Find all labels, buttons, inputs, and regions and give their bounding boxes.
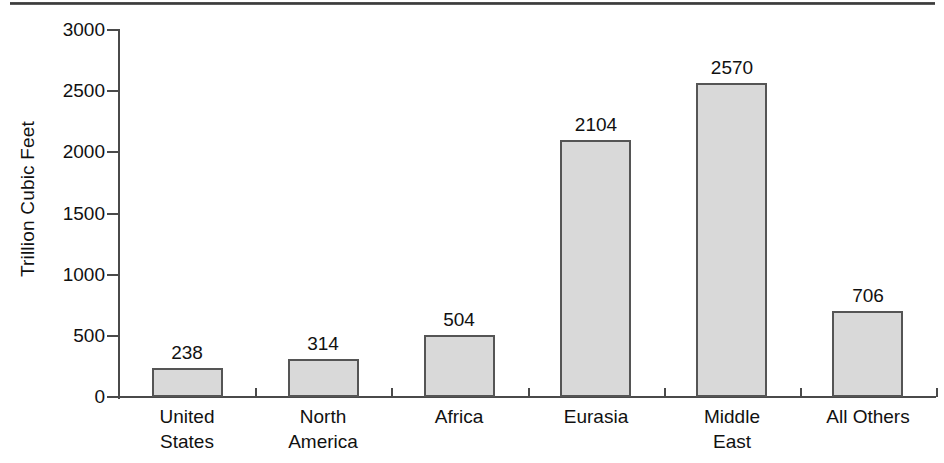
bar-value-label: 2570 bbox=[682, 57, 782, 79]
x-axis-category-label-line: Eurasia bbox=[526, 404, 666, 429]
y-axis-tick-label: 2500 bbox=[57, 80, 105, 102]
x-axis-category-label: NorthAmerica bbox=[253, 404, 393, 454]
bar-value-label: 706 bbox=[818, 285, 918, 307]
x-axis-category-label-line: All Others bbox=[798, 404, 938, 429]
x-axis-category-label: MiddleEast bbox=[662, 404, 802, 454]
bar-value-label: 314 bbox=[273, 333, 373, 355]
x-axis-tick bbox=[255, 388, 257, 397]
x-axis-category-label: Africa bbox=[389, 404, 529, 429]
y-axis-tick-label: 1500 bbox=[57, 203, 105, 225]
y-axis-tick bbox=[107, 274, 119, 276]
x-axis-category-label-line: States bbox=[117, 429, 257, 454]
y-axis-tick-label: 0 bbox=[57, 386, 105, 408]
y-axis-tick bbox=[107, 335, 119, 337]
chart-canvas: Trillion Cubic Feet 30002500200015001000… bbox=[0, 0, 944, 463]
x-axis-category-label: UnitedStates bbox=[117, 404, 257, 454]
y-axis-tick bbox=[107, 213, 119, 215]
bar bbox=[424, 335, 495, 397]
x-axis-tick bbox=[664, 388, 666, 397]
bar-value-label: 238 bbox=[137, 342, 237, 364]
x-axis-category-label-line: East bbox=[662, 429, 802, 454]
bar-value-label: 504 bbox=[409, 309, 509, 331]
y-axis-tick bbox=[107, 29, 119, 31]
x-axis-tick bbox=[391, 388, 393, 397]
x-axis-category-label-line: United bbox=[117, 404, 257, 429]
x-axis-category-label: All Others bbox=[798, 404, 938, 429]
bar bbox=[832, 311, 903, 397]
y-axis-tick-label: 2000 bbox=[57, 141, 105, 163]
y-axis-tick bbox=[107, 396, 119, 398]
x-axis-tick bbox=[528, 388, 530, 397]
x-axis-tick bbox=[936, 388, 938, 397]
x-axis-category-label: Eurasia bbox=[526, 404, 666, 429]
x-axis-category-label-line: Africa bbox=[389, 404, 529, 429]
bar bbox=[152, 368, 223, 397]
bar bbox=[560, 140, 631, 397]
x-axis-category-label-line: Middle bbox=[662, 404, 802, 429]
y-axis-title-text: Trillion Cubic Feet bbox=[17, 120, 39, 276]
x-axis-category-label-line: North bbox=[253, 404, 393, 429]
page-rule-divider bbox=[10, 2, 935, 5]
x-axis-tick bbox=[800, 388, 802, 397]
y-axis-tick bbox=[107, 151, 119, 153]
x-axis-line bbox=[118, 396, 936, 398]
y-axis-tick-label: 1000 bbox=[57, 264, 105, 286]
y-axis-title: Trillion Cubic Feet bbox=[0, 0, 56, 397]
bar-value-label: 2104 bbox=[546, 114, 646, 136]
bar bbox=[288, 359, 359, 397]
y-axis-tick-label: 500 bbox=[57, 325, 105, 347]
y-axis-tick bbox=[107, 90, 119, 92]
bar bbox=[696, 83, 767, 397]
y-axis-tick-label: 3000 bbox=[57, 19, 105, 41]
x-axis-category-label-line: America bbox=[253, 429, 393, 454]
